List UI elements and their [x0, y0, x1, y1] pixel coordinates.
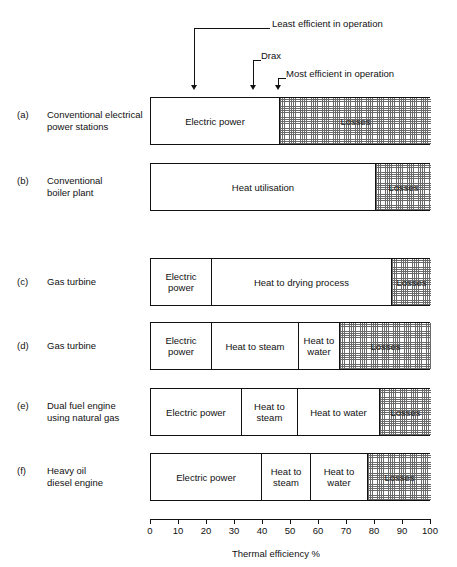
bar-segment-label: Losses — [383, 472, 415, 483]
bar-segment-losses: Losses — [375, 164, 431, 210]
row-name-4: Dual fuel engineusing natural gas — [47, 400, 119, 425]
axis-tick-60 — [318, 519, 319, 524]
bar-segment-label: Heat to steam — [224, 341, 285, 352]
bar-segment-heat-to-water: Heat to water — [298, 323, 339, 369]
bar-segment-label: Electric power — [184, 116, 246, 127]
axis-tick-90 — [402, 519, 403, 524]
row-name-line: Heavy oil — [47, 465, 103, 478]
bar-segment-heat-to-water: Heat to water — [297, 389, 379, 435]
row-name-3: Gas turbine — [47, 340, 96, 353]
bar-segment-label: Electric power — [165, 407, 227, 418]
bar-segment-label: Heat to drying process — [253, 277, 350, 288]
annotation-arrow-most-efficient — [275, 85, 281, 90]
thermal-efficiency-diagram: Least efficient in operation Drax Most e… — [0, 0, 457, 567]
row-name-5: Heavy oildiesel engine — [47, 465, 103, 490]
row-letter-3: (d) — [17, 340, 29, 353]
axis-tick-100 — [430, 519, 431, 524]
bar-segment-heat-to-drying-process: Heat to drying process — [211, 259, 391, 305]
axis-tick-80 — [374, 519, 375, 524]
row-name-line: Conventional electrical — [47, 109, 143, 122]
axis-title: Thermal efficiency % — [232, 548, 320, 559]
bar-segment-electric-power: Electric power — [151, 389, 241, 435]
bar-row-0: Electric powerLosses — [150, 97, 430, 145]
bar-segment-electric-power: Electric power — [151, 454, 261, 500]
bar-segment-heat-to-water: Heat to water — [310, 454, 367, 500]
row-letter-1: (b) — [17, 175, 29, 188]
bar-segment-label: Heat to water — [299, 335, 339, 357]
row-letter-0: (a) — [17, 109, 29, 122]
row-name-line: Gas turbine — [47, 340, 96, 353]
annotation-leader-vertical-drax — [253, 60, 254, 86]
bar-segment-label: Losses — [389, 407, 421, 418]
axis-tick-label-60: 60 — [313, 525, 324, 536]
bar-row-3: Electric powerHeat to steamHeat to water… — [150, 322, 430, 370]
row-name-line: Conventional — [47, 175, 102, 188]
row-name-2: Gas turbine — [47, 276, 96, 289]
bar-segment-losses: Losses — [367, 454, 431, 500]
bar-segment-label: Electric power — [151, 271, 211, 293]
annotation-arrow-least-efficient — [191, 85, 197, 90]
row-letter-2: (c) — [17, 276, 28, 289]
axis-tick-30 — [234, 519, 235, 524]
axis-tick-50 — [290, 519, 291, 524]
bar-segment-label: Losses — [387, 182, 419, 193]
bar-segment-electric-power: Electric power — [151, 98, 279, 144]
bar-row-4: Electric powerHeat to steamHeat to water… — [150, 388, 430, 436]
row-name-line: Gas turbine — [47, 276, 96, 289]
bar-segment-label: Heat to steam — [242, 401, 297, 423]
bar-segment-losses: Losses — [279, 98, 431, 144]
row-letter-4: (e) — [17, 400, 29, 413]
bar-segment-label: Losses — [339, 116, 371, 127]
bar-segment-heat-to-steam: Heat to steam — [211, 323, 298, 369]
annotation-leader-horizontal-drax — [253, 60, 261, 61]
axis-tick-label-70: 70 — [341, 525, 352, 536]
bar-segment-label: Heat utilisation — [231, 182, 295, 193]
bar-segment-label: Losses — [369, 341, 401, 352]
row-name-1: Conventionalboiler plant — [47, 175, 102, 200]
annotation-label-least-efficient: Least efficient in operation — [272, 18, 383, 29]
annotation-leader-horizontal-least-efficient — [194, 28, 270, 29]
axis-tick-70 — [346, 519, 347, 524]
row-name-line: power stations — [47, 121, 143, 134]
bar-segment-losses: Losses — [339, 323, 431, 369]
bar-segment-heat-utilisation: Heat utilisation — [151, 164, 375, 210]
axis-tick-label-20: 20 — [201, 525, 212, 536]
axis-tick-40 — [262, 519, 263, 524]
bar-segment-losses: Losses — [379, 389, 431, 435]
row-name-line: diesel engine — [47, 477, 103, 490]
bar-row-5: Electric powerHeat to steamHeat to water… — [150, 453, 430, 501]
axis-tick-label-90: 90 — [397, 525, 408, 536]
bar-segment-label: Heat to water — [309, 407, 368, 418]
annotation-label-drax: Drax — [261, 50, 281, 61]
axis-tick-label-10: 10 — [173, 525, 184, 536]
bar-segment-label: Heat to steam — [262, 466, 310, 488]
axis-tick-10 — [178, 519, 179, 524]
bar-segment-electric-power: Electric power — [151, 323, 211, 369]
axis-tick-label-40: 40 — [257, 525, 268, 536]
row-letter-5: (f) — [17, 465, 26, 478]
bar-segment-label: Heat to water — [311, 466, 367, 488]
bar-row-1: Heat utilisationLosses — [150, 163, 430, 211]
bar-segment-label: Losses — [395, 277, 427, 288]
row-name-line: boiler plant — [47, 187, 102, 200]
axis-tick-label-100: 100 — [422, 525, 438, 536]
axis-tick-20 — [206, 519, 207, 524]
bar-row-2: Electric powerHeat to drying processLoss… — [150, 258, 430, 306]
row-name-line: Dual fuel engine — [47, 400, 119, 413]
bar-segment-electric-power: Electric power — [151, 259, 211, 305]
bar-segment-label: Electric power — [175, 472, 237, 483]
bar-segment-heat-to-steam: Heat to steam — [241, 389, 297, 435]
annotation-leader-vertical-least-efficient — [194, 28, 195, 86]
row-name-0: Conventional electricalpower stations — [47, 109, 143, 134]
annotation-label-most-efficient: Most efficient in operation — [286, 68, 394, 79]
bar-segment-label: Electric power — [151, 335, 211, 357]
row-name-line: using natural gas — [47, 412, 119, 425]
bar-segment-losses: Losses — [391, 259, 431, 305]
axis-tick-label-30: 30 — [229, 525, 240, 536]
annotation-leader-horizontal-most-efficient — [278, 78, 286, 79]
axis-tick-0 — [150, 519, 151, 524]
annotation-arrow-drax — [250, 85, 256, 90]
axis-tick-label-80: 80 — [369, 525, 380, 536]
axis-tick-label-50: 50 — [285, 525, 296, 536]
bar-segment-heat-to-steam: Heat to steam — [261, 454, 310, 500]
